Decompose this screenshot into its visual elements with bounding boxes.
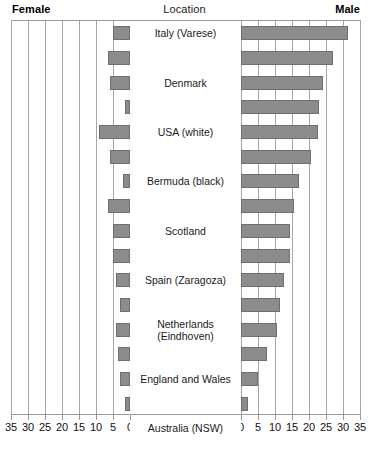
female-bar [110,76,130,90]
chart-header: Female Location Male [0,0,369,20]
row-label: Scotland [130,225,241,237]
bar-rows: Italy (Varese)DenmarkUSA (white)Bermuda … [11,21,361,416]
female-bar [125,100,130,114]
chart-row: Poland (Warsaw) [11,293,361,318]
header-location-label: Location [0,3,369,15]
row-label: USA (white) [130,126,241,138]
male-bar [241,372,258,386]
row-label: Bermuda (black) [130,175,241,187]
tick-label-female-5: 5 [110,421,116,433]
male-bar [241,347,267,361]
male-bar [241,51,333,65]
chart-row: Hong Kong [11,243,361,268]
female-bar [113,224,130,238]
female-bar [123,174,130,188]
tick-label-male-30: 30 [337,421,349,433]
male-bar [241,26,348,40]
tick-label-female-35: 35 [5,421,17,433]
chart-row: India (Bombay) [11,391,361,416]
plot-area: Italy (Varese)DenmarkUSA (white)Bermuda … [11,20,361,415]
row-label: England and Wales [130,373,241,385]
row-label: Australia (NSW) [130,422,241,434]
row-label: Italy (Varese) [130,27,241,39]
row-label: Denmark [130,77,241,89]
female-bar [108,199,130,213]
male-bar [241,249,290,263]
tick-label-male-10: 10 [269,421,281,433]
female-bar [116,273,130,287]
female-bar [113,249,130,263]
chart-row: Japan (Osaka) [11,342,361,367]
chart-row: England and Wales [11,194,361,219]
bilateral-bar-chart: Female Location Male Italy (Varese)Denma… [0,0,369,455]
female-bar [118,347,130,361]
male-bar [241,76,323,90]
chart-row: Denmark [11,46,361,71]
tick-label-female-15: 15 [73,421,85,433]
female-bar [110,150,130,164]
male-bar [241,174,299,188]
tick-label-male-25: 25 [320,421,332,433]
male-bar [241,199,294,213]
tick-label-male-15: 15 [286,421,298,433]
female-bar [116,323,130,337]
male-bar [241,323,277,337]
tick-label-female-30: 30 [22,421,34,433]
tick-label-male-5: 5 [255,421,261,433]
female-bar [108,51,130,65]
male-bar [241,150,311,164]
tick-label-male-35: 35 [354,421,366,433]
male-bar [241,100,319,114]
male-bar [241,397,248,411]
female-bar [120,372,130,386]
male-bar [241,125,318,139]
chart-row: Spain (Zaragoza) [11,144,361,169]
male-bar [241,273,284,287]
male-bar [241,298,280,312]
tick-label-female-20: 20 [56,421,68,433]
female-bar [125,397,130,411]
female-bar [120,298,130,312]
tick-label-female-25: 25 [39,421,51,433]
tick-label-male-20: 20 [303,421,315,433]
male-bar [241,224,290,238]
tick-label-female-10: 10 [90,421,102,433]
chart-row: Bermuda (black) [11,95,361,120]
female-bar [99,125,130,139]
header-male-label: Male [335,3,360,15]
row-label: Spain (Zaragoza) [130,274,241,286]
row-label: Netherlands(Eindhoven) [130,318,241,342]
female-bar [113,26,130,40]
chart-row: Italy (Varese) [11,21,361,46]
